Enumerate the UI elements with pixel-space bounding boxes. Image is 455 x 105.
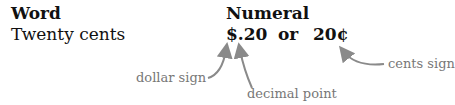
cents-arrow (344, 52, 384, 65)
decimal-arrow (240, 50, 252, 88)
dollar-arrow (208, 50, 226, 78)
label-cents-sign: cents sign (388, 56, 455, 71)
label-dollar-sign: dollar sign (136, 70, 206, 85)
label-decimal-point: decimal point (247, 86, 337, 101)
